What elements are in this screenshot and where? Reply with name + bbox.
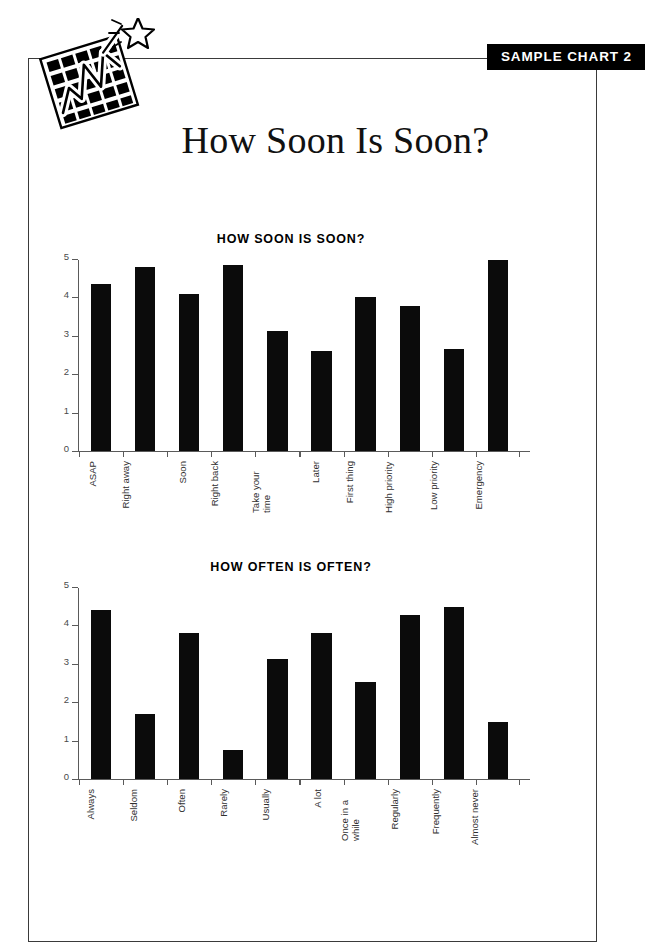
bar-cell	[211, 588, 255, 779]
chart-title: HOW SOON IS SOON?	[48, 232, 568, 246]
bar	[267, 331, 287, 451]
plot-area: 012345 ASAPRight awaySoonRight backTake …	[78, 260, 520, 452]
x-label-cell: Take your time	[255, 461, 299, 557]
x-tick-label: First thing	[345, 461, 356, 503]
chart-how-soon-is-soon: HOW SOON IS SOON? 012345 ASAPRight awayS…	[48, 232, 568, 452]
chart-title: HOW OFTEN IS OFTEN?	[48, 560, 568, 574]
bar-cell	[344, 588, 388, 779]
bar	[223, 750, 243, 779]
x-label-cell: ASAP	[79, 461, 123, 557]
y-tick-label: 1	[64, 734, 69, 744]
bar-cell	[299, 260, 343, 451]
x-tick	[432, 779, 433, 785]
bar-cell	[123, 588, 167, 779]
x-tick	[123, 779, 124, 785]
bar-series	[79, 260, 520, 451]
x-tick	[79, 779, 80, 785]
x-label-cell: Almost never	[476, 789, 520, 885]
bar	[91, 284, 111, 451]
x-tick-label: Always	[86, 789, 97, 819]
x-tick-labels: AlwaysSeldomOftenRarelyUsuallyA lotOnce …	[79, 789, 520, 885]
y-tick: 2	[72, 374, 78, 375]
status-badge: SAMPLE CHART 2	[487, 44, 645, 70]
x-tick	[519, 779, 520, 785]
bar	[91, 610, 111, 779]
x-tick	[167, 451, 168, 457]
y-tick-label: 3	[64, 657, 69, 667]
bar	[267, 659, 287, 779]
plot-area: 012345 AlwaysSeldomOftenRarelyUsuallyA l…	[78, 588, 520, 780]
bar-cell	[344, 260, 388, 451]
y-tick-label: 5	[64, 252, 69, 262]
x-tick	[211, 451, 212, 457]
bar	[223, 265, 243, 451]
x-tick	[123, 451, 124, 457]
x-tick-labels: ASAPRight awaySoonRight backTake your ti…	[79, 461, 520, 557]
x-tick	[476, 779, 477, 785]
y-tick: 4	[72, 625, 78, 626]
x-tick-label: Soon	[178, 461, 189, 483]
y-tick-label: 0	[64, 772, 69, 782]
x-tick-label: High priority	[384, 461, 395, 513]
x-label-cell: High priority	[388, 461, 432, 557]
x-label-cell: Later	[299, 461, 343, 557]
x-tick-label: Usually	[262, 789, 273, 820]
x-tick-label: Later	[311, 461, 322, 483]
bar	[135, 267, 155, 452]
x-label-cell: Emergency	[476, 461, 520, 557]
y-tick-label: 4	[64, 290, 69, 300]
bar	[311, 351, 331, 451]
x-tick	[299, 451, 300, 457]
x-tick-label: Right away	[121, 461, 132, 508]
bar	[179, 294, 199, 451]
x-label-cell: Once in a while	[344, 789, 388, 885]
bar-cell	[432, 588, 476, 779]
x-label-cell: Often	[167, 789, 211, 885]
x-tick	[211, 779, 212, 785]
bar-series	[79, 588, 520, 779]
bar-cell	[476, 588, 520, 779]
bar-cell	[432, 260, 476, 451]
y-tick-label: 5	[64, 580, 69, 590]
x-tick	[255, 451, 256, 457]
bar-cell	[167, 260, 211, 451]
x-tick	[344, 779, 345, 785]
bar-cell	[476, 260, 520, 451]
x-tick-label: Low priority	[429, 461, 440, 510]
x-label-cell: Seldom	[123, 789, 167, 885]
y-tick-label: 1	[64, 406, 69, 416]
x-label-cell: Rarely	[211, 789, 255, 885]
y-tick-label: 2	[64, 367, 69, 377]
x-label-cell: Usually	[255, 789, 299, 885]
y-tick: 2	[72, 702, 78, 703]
x-tick-label: Once in a while	[340, 789, 361, 841]
x-tick	[388, 779, 389, 785]
bar	[444, 607, 464, 779]
x-label-cell: Always	[79, 789, 123, 885]
x-label-cell: Soon	[167, 461, 211, 557]
x-tick	[299, 779, 300, 785]
x-label-cell: Regularly	[388, 789, 432, 885]
x-label-cell: Right away	[123, 461, 167, 557]
bar	[444, 349, 464, 451]
bar	[311, 633, 331, 779]
x-tick-label: Frequently	[431, 789, 442, 834]
bar-cell	[299, 588, 343, 779]
bar	[400, 306, 420, 451]
bar-cell	[167, 588, 211, 779]
x-tick-label: Seldom	[129, 789, 140, 822]
x-tick	[344, 451, 345, 457]
x-tick	[255, 779, 256, 785]
bar-cell	[388, 260, 432, 451]
x-tick	[476, 451, 477, 457]
x-tick-label: Emergency	[474, 461, 485, 510]
x-tick	[388, 451, 389, 457]
x-label-cell: A lot	[299, 789, 343, 885]
y-tick: 3	[72, 336, 78, 337]
x-tick-label: Regularly	[389, 789, 400, 830]
y-tick: 5	[72, 259, 78, 260]
y-tick-label: 2	[64, 695, 69, 705]
bar	[355, 297, 375, 451]
chart-how-often-is-often: HOW OFTEN IS OFTEN? 012345 AlwaysSeldomO…	[48, 560, 568, 780]
x-tick-label: Almost never	[470, 789, 481, 845]
